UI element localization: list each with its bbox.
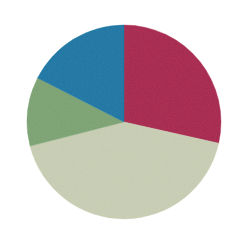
pie-grain-texture xyxy=(0,0,236,244)
pie-chart-figure xyxy=(0,0,236,244)
pie-chart-canvas xyxy=(0,0,236,244)
